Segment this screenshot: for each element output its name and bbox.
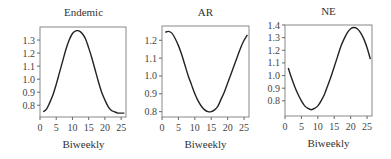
series-line (165, 31, 247, 112)
x-axis-label: Biweekly (162, 138, 249, 150)
x-tick-label: 10 (313, 121, 323, 132)
chart-panel-endemic: Endemic 05101520250.80.91.01.11.21.3 Biw… (0, 0, 135, 159)
y-tick-label: 1.0 (145, 70, 158, 81)
y-tick-label: 1.1 (23, 61, 36, 72)
series-line (43, 31, 124, 114)
x-tick-label: 5 (299, 121, 304, 132)
y-tick-label: 1.0 (23, 74, 36, 85)
y-tick-label: 1.3 (268, 32, 281, 43)
x-tick-label: 20 (346, 121, 356, 132)
plot-frame (285, 25, 372, 116)
series-line (288, 28, 370, 110)
y-tick-label: 1.0 (268, 70, 281, 81)
chart-plot: 05101520250.80.91.01.11.21.3 (0, 0, 135, 159)
y-tick-label: 0.9 (268, 83, 281, 94)
y-tick-label: 0.8 (145, 106, 158, 117)
x-tick-label: 20 (100, 122, 110, 133)
y-tick-label: 0.9 (145, 88, 158, 99)
y-tick-label: 0.9 (23, 87, 36, 98)
x-tick-label: 15 (206, 122, 216, 133)
x-tick-label: 25 (362, 121, 372, 132)
y-tick-label: 1.2 (268, 45, 281, 56)
x-tick-label: 0 (283, 121, 288, 132)
x-tick-label: 25 (239, 122, 249, 133)
x-tick-label: 0 (160, 122, 165, 133)
y-tick-label: 1.2 (145, 35, 158, 46)
x-axis-label: Biweekly (285, 137, 372, 149)
x-tick-label: 15 (329, 121, 339, 132)
x-tick-label: 5 (54, 122, 59, 133)
chart-plot: 05101520250.80.91.01.11.2 (130, 0, 265, 159)
y-tick-label: 1.2 (23, 48, 36, 59)
chart-panel-ne: NE 05101520250.80.91.01.11.21.31.4 Biwee… (255, 0, 391, 159)
y-tick-label: 0.8 (23, 100, 36, 111)
y-tick-label: 1.1 (268, 57, 281, 68)
chart-plot: 05101520250.80.91.01.11.21.31.4 (255, 0, 391, 159)
x-tick-label: 15 (84, 122, 94, 133)
plot-frame (40, 27, 126, 117)
x-tick-label: 5 (176, 122, 181, 133)
chart-panel-ar: AR 05101520250.80.91.01.11.2 Biweekly (130, 0, 265, 159)
y-tick-label: 1.3 (23, 35, 36, 46)
x-tick-label: 0 (38, 122, 43, 133)
x-axis-label: Biweekly (40, 138, 127, 150)
y-tick-label: 1.1 (145, 53, 158, 64)
y-tick-label: 1.4 (268, 20, 281, 31)
x-tick-label: 10 (67, 122, 77, 133)
x-tick-label: 25 (116, 122, 126, 133)
x-tick-label: 20 (223, 122, 233, 133)
y-tick-label: 0.8 (268, 95, 281, 106)
x-tick-label: 10 (190, 122, 200, 133)
